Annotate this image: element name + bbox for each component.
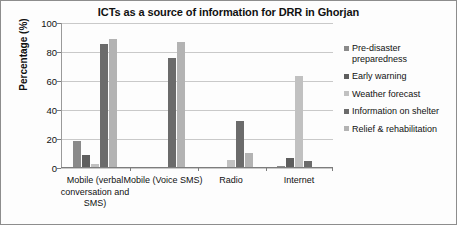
legend-label: Early warning (352, 71, 407, 82)
bars-layer (62, 23, 333, 167)
chart-figure: ICTs as a source of information for DRR … (0, 0, 457, 225)
bar-group (266, 23, 345, 167)
x-axis-category-labels: Mobile (verbal conversation and SMS)Mobi… (61, 171, 333, 223)
chart-title: ICTs as a source of information for DRR … (1, 6, 456, 18)
legend-item[interactable]: Early warning (344, 71, 456, 82)
legend-swatch-icon (344, 74, 349, 79)
plot-area (61, 23, 333, 168)
x-category-label: Internet (257, 175, 341, 187)
y-tick-label-80: 80 (31, 47, 57, 58)
legend-item[interactable]: Information on shelter (344, 106, 456, 117)
y-tick-label-60: 60 (31, 76, 57, 87)
legend-label: Relief & rehabilitation (352, 124, 437, 135)
bar (82, 155, 90, 167)
legend-swatch-icon (344, 126, 349, 131)
y-tick-label-0: 0 (31, 163, 57, 174)
legend-swatch-icon (344, 46, 349, 51)
bar (295, 76, 303, 167)
legend-item[interactable]: Pre-disaster preparedness (344, 43, 456, 64)
bar (168, 58, 176, 167)
legend-label: Weather forecast (352, 89, 420, 100)
y-tick-label-20: 20 (31, 134, 57, 145)
y-axis-tick-labels: 020406080100 (25, 23, 57, 168)
y-tick-label-40: 40 (31, 105, 57, 116)
legend-swatch-icon (344, 91, 349, 96)
bar (177, 42, 185, 167)
legend-item[interactable]: Relief & rehabilitation (344, 124, 456, 135)
y-tick-label-100: 100 (31, 18, 57, 29)
bar (227, 160, 235, 167)
legend-label: Pre-disaster preparedness (352, 43, 456, 64)
chart-legend: Pre-disaster preparednessEarly warningWe… (344, 43, 456, 141)
bar (236, 121, 244, 167)
bar (286, 158, 294, 167)
legend-item[interactable]: Weather forecast (344, 89, 456, 100)
bar (100, 44, 108, 167)
bar (109, 39, 117, 167)
bar (73, 141, 81, 167)
x-axis-line (61, 167, 333, 168)
bar (245, 153, 253, 168)
gridline-0 (61, 168, 333, 169)
legend-label: Information on shelter (352, 106, 439, 117)
legend-swatch-icon (344, 109, 349, 114)
